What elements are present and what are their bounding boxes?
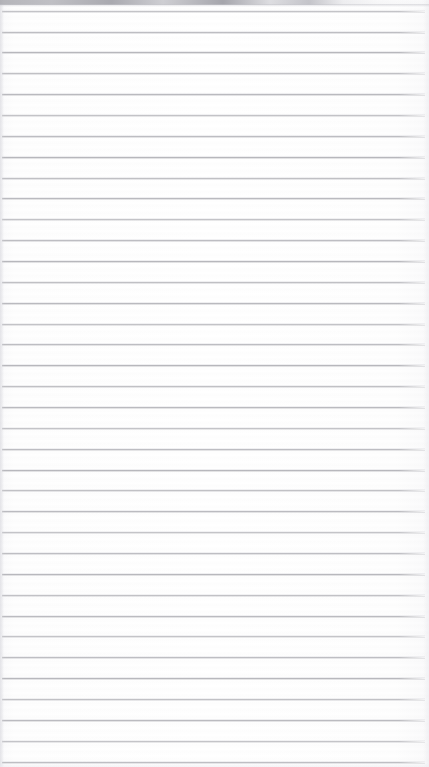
rule-line xyxy=(2,73,425,74)
rule-line xyxy=(2,11,425,12)
rule-line xyxy=(2,365,425,366)
rule-line xyxy=(2,219,425,220)
rule-line xyxy=(2,407,425,408)
rule-line xyxy=(2,490,425,491)
rule-line xyxy=(2,574,425,575)
rule-line xyxy=(2,282,425,283)
rule-line xyxy=(2,553,425,554)
rule-line xyxy=(2,699,425,700)
rule-line xyxy=(2,741,425,742)
rule-line xyxy=(2,324,425,325)
rule-line xyxy=(2,532,425,533)
rule-line xyxy=(2,511,425,512)
rule-line xyxy=(2,94,425,95)
rule-line xyxy=(2,261,425,262)
rule-line xyxy=(2,386,425,387)
rule-line xyxy=(2,32,425,33)
rule-line xyxy=(2,115,425,116)
left-edge-shadow-band xyxy=(0,0,4,767)
rule-line xyxy=(2,678,425,679)
rule-line xyxy=(2,157,425,158)
rule-line xyxy=(2,595,425,596)
rule-line-group xyxy=(0,0,429,767)
rule-line xyxy=(2,449,425,450)
bottom-edge-shadow-band xyxy=(0,763,429,767)
right-edge-shadow-band xyxy=(423,0,429,767)
scanned-paper-page xyxy=(0,0,429,767)
top-scan-artifact-shade xyxy=(0,4,429,7)
rule-line xyxy=(2,616,425,617)
rule-line xyxy=(2,178,425,179)
rule-line xyxy=(2,303,425,304)
rule-line xyxy=(2,470,425,471)
rule-line xyxy=(2,198,425,199)
rule-line xyxy=(2,657,425,658)
rule-line xyxy=(2,344,425,345)
rule-line xyxy=(2,636,425,637)
rule-line xyxy=(2,136,425,137)
rule-line xyxy=(2,720,425,721)
rule-line xyxy=(2,428,425,429)
rule-line xyxy=(2,52,425,53)
rule-line xyxy=(2,240,425,241)
